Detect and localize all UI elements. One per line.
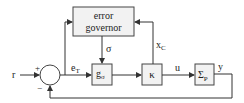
minus-sign: − <box>37 83 42 93</box>
x-c-line <box>135 22 153 64</box>
error-governor-label-line2: governor <box>85 22 122 33</box>
summing-junction: + − <box>35 63 60 93</box>
signal-y-label: y <box>218 61 223 72</box>
g-sigma-block: gσ <box>92 64 112 85</box>
kappa-block: κ <box>142 64 162 85</box>
signal-r-label: r <box>12 69 16 80</box>
control-block-diagram: error governor + − r eT σ gσ κ xC u ΣP y <box>0 0 244 103</box>
signal-sigma-label: σ <box>106 43 112 54</box>
signal-e-t-label: eT <box>71 62 80 75</box>
error-governor-block: error governor <box>73 7 134 36</box>
error-governor-label-line1: error <box>94 10 114 21</box>
sigma-p-block: ΣP <box>195 64 214 85</box>
signal-x-c-label: xC <box>156 39 166 52</box>
plus-sign: + <box>35 63 40 73</box>
signal-u-label: u <box>175 62 180 73</box>
kappa-label: κ <box>149 68 155 80</box>
